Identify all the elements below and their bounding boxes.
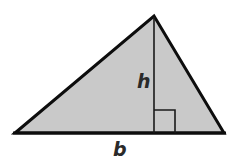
height-label: h xyxy=(137,70,151,92)
triangle-diagram: h b xyxy=(0,0,235,161)
base-label: b xyxy=(113,138,127,160)
triangle-shape xyxy=(15,16,224,133)
